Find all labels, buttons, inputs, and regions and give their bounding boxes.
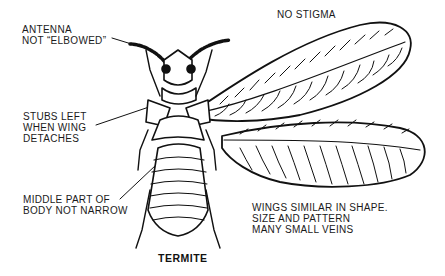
middle-body-label: MIDDLE PART OF BODY NOT NARROW [23,194,128,216]
no-stigma-label: NO STIGMA [277,9,336,20]
lower-wing [222,120,425,187]
upper-wing [196,23,411,121]
diagram-title: TERMITE [158,252,208,264]
wings-similar-label: WINGS SIMILAR IN SHAPE. SIZE AND PATTERN… [252,202,388,235]
antenna-label: ANTENNA NOT “ELBOWED” [22,24,106,46]
wing-stubs-label: STUBS LEFT WHEN WING DETACHES [23,111,87,144]
termite-body [146,50,210,236]
